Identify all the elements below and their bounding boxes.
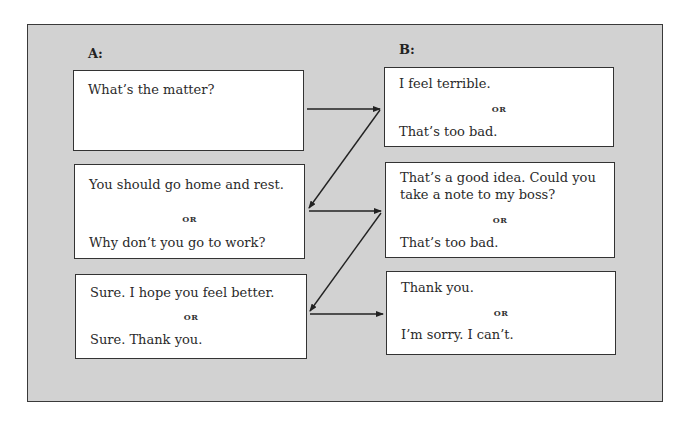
arrow-diagonal-icon	[310, 213, 381, 311]
flow-arrows	[0, 0, 690, 424]
arrow-diagonal-icon	[309, 110, 380, 208]
